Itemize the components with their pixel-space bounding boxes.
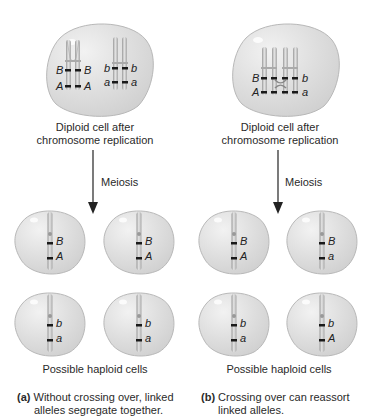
allele-label: a [131,77,137,88]
caption-line: Diploid cell after [220,121,340,134]
diploid-caption-a: Diploid cell after chromosome replicatio… [35,121,155,147]
caption-line: chromosome replication [35,134,155,147]
allele-label: B [56,65,63,76]
meiosis-arrow-b [273,150,283,214]
allele-label: a [145,333,151,344]
haploid-cell-b1 [199,211,269,274]
allele-label: b [302,73,308,84]
panel-letter-a: (a) [17,391,30,403]
allele-label: A [252,87,259,98]
allele-label: b [104,63,110,74]
meiosis-label-a: Meiosis [101,176,138,188]
panel-caption-line: Without crossing over, linked [34,391,174,403]
allele-label: A [84,81,91,92]
allele-label: B [84,65,91,76]
haploid-cell-a1 [15,211,85,274]
allele-label: a [302,87,308,98]
allele-label: B [145,236,152,247]
allele-label: b [145,318,151,329]
allele-label: b [240,318,246,329]
allele-label: B [56,236,63,247]
allele-label: a [240,333,246,344]
haploid-cell-b3 [199,293,269,356]
diploid-caption-b: Diploid cell after chromosome replicatio… [220,121,340,147]
allele-label: a [328,251,334,262]
caption-line: chromosome replication [220,134,340,147]
panel-caption-a: (a) Without crossing over, linked allele… [17,391,174,417]
caption-line: Diploid cell after [35,121,155,134]
haploid-cell-b4 [287,293,357,356]
allele-label: b [328,318,334,329]
allele-label: a [56,333,62,344]
allele-label: b [56,318,62,329]
meiosis-label-b: Meiosis [285,176,322,188]
haploid-caption-b: Possible haploid cells [219,363,339,376]
allele-label: A [56,81,63,92]
allele-label: b [131,63,137,74]
panel-caption-line: alleles segregate together. [17,404,174,417]
diploid-cell-b [233,24,340,116]
allele-label: B [240,236,247,247]
haploid-cell-a2 [104,211,174,274]
allele-label: B [252,73,259,84]
meiosis-arrow-a [88,150,98,214]
panel-caption-line: Crossing over can reassort [218,391,349,403]
panel-caption-b: (b) Crossing over can reassort linked al… [201,391,350,417]
allele-label: A [240,251,247,262]
haploid-cell-a3 [15,293,85,356]
haploid-caption-a: Possible haploid cells [35,363,155,376]
haploid-cell-b2 [287,211,357,274]
allele-label: A [56,251,63,262]
panel-caption-line: linked alleles. [201,404,350,417]
haploid-cell-a4 [104,293,174,356]
allele-label: B [328,236,335,247]
allele-label: A [145,251,152,262]
allele-label: a [104,77,110,88]
allele-label: A [328,333,335,344]
panel-letter-b: (b) [201,391,215,403]
